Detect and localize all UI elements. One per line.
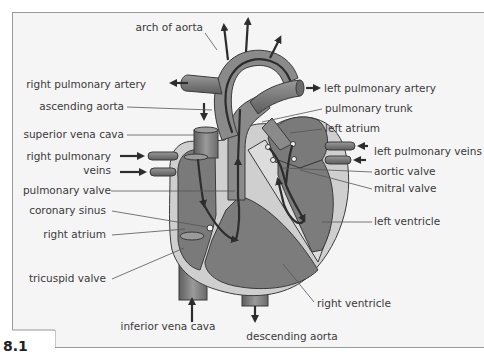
label-right-atrium: right atrium <box>43 228 106 240</box>
label-right-pulmonary-artery: right pulmonary artery <box>26 78 146 90</box>
label-left-pulmonary-veins: left pulmonary veins <box>374 145 482 157</box>
label-pulmonary-trunk: pulmonary trunk <box>325 102 414 114</box>
label-right-pulmonary-veins-2: veins <box>83 164 111 176</box>
label-aortic-valve: aortic valve <box>374 165 436 177</box>
figure-number: 8.1 <box>3 338 28 354</box>
label-ascending-aorta: ascending aorta <box>39 100 124 112</box>
label-mitral-valve: mitral valve <box>374 182 437 194</box>
label-inferior-vena-cava: inferior vena cava <box>121 320 216 332</box>
coronary-sinus-dot <box>207 225 213 231</box>
label-left-ventricle: left ventricle <box>374 215 440 227</box>
ivc-opening <box>180 232 204 240</box>
right-atrium-opening <box>184 154 208 160</box>
label-pulmonary-valve: pulmonary valve <box>23 184 111 196</box>
label-arch-of-aorta: arch of aorta <box>136 21 203 33</box>
label-left-pulmonary-artery: left pulmonary artery <box>324 82 436 94</box>
label-left-atrium: left atrium <box>325 122 380 134</box>
heart-diagram-figure: 8.1 <box>0 0 484 364</box>
label-descending-aorta: descending aorta <box>246 330 337 342</box>
label-superior-vena-cava: superior vena cava <box>23 128 124 140</box>
label-tricuspid-valve: tricuspid valve <box>29 272 106 284</box>
label-coronary-sinus: coronary sinus <box>29 204 106 216</box>
label-right-ventricle: right ventricle <box>317 297 391 309</box>
label-right-pulmonary-veins-1: right pulmonary <box>26 150 111 162</box>
